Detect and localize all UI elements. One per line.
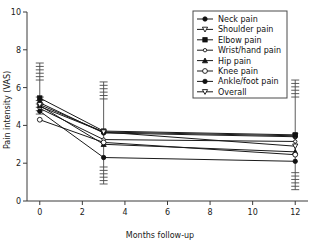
y-tick-label: 10	[11, 8, 21, 17]
data-point-marker	[101, 140, 106, 145]
y-tick-label: 0	[16, 197, 21, 206]
legend-item-label: Wrist/hand pain	[218, 46, 281, 55]
y-tick-label: 6	[16, 84, 21, 93]
chart-figure: 0246810024681012 Months follow-up Pain i…	[0, 0, 319, 246]
data-point-marker	[293, 159, 297, 163]
x-tick-label: 0	[37, 208, 42, 217]
legend-marker-icon	[203, 38, 207, 42]
legend-item-label: Elbow pain	[218, 36, 262, 45]
data-point-marker	[101, 155, 105, 159]
y-tick-label: 4	[16, 121, 21, 130]
x-tick-label: 12	[290, 208, 300, 217]
x-tick-label: 10	[248, 208, 258, 217]
legend-item-label: Neck pain	[218, 15, 258, 24]
y-axis-title: Pain intensity (VAS)	[3, 71, 12, 149]
x-tick-label: 2	[80, 208, 85, 217]
legend-item-label: Ankle/foot pain	[218, 77, 279, 86]
legend-item-label: Shoulder pain	[218, 25, 273, 34]
x-tick-label: 8	[208, 208, 213, 217]
data-point-marker	[293, 152, 298, 157]
data-point-marker	[294, 140, 297, 143]
legend-marker-icon	[203, 79, 207, 83]
x-axis-title: Months follow-up	[126, 231, 194, 240]
legend-marker-icon	[203, 49, 206, 52]
y-tick-label: 2	[16, 159, 21, 168]
legend-item-label: Hip pain	[218, 57, 251, 66]
data-point-marker	[38, 109, 42, 113]
legend-marker-icon	[203, 17, 207, 21]
chart-legend: Neck painShoulder painElbow painWrist/ha…	[193, 11, 287, 98]
pain-intensity-line-chart: 0246810024681012 Months follow-up Pain i…	[0, 0, 319, 246]
y-tick-label: 8	[16, 46, 21, 55]
data-point-marker	[38, 96, 42, 100]
data-point-marker	[293, 133, 297, 137]
legend-item-label: Knee pain	[218, 67, 258, 76]
x-tick-label: 6	[165, 208, 170, 217]
legend-item-label: Overall	[218, 88, 247, 97]
x-tick-label: 4	[122, 208, 127, 217]
data-point-marker	[37, 117, 42, 122]
legend-marker-icon	[203, 69, 208, 74]
